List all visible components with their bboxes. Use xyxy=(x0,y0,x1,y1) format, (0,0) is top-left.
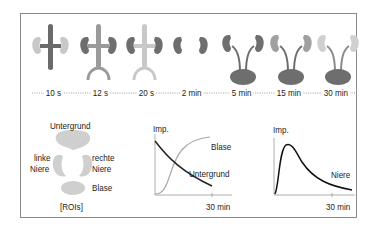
timeline-label: 12 s xyxy=(91,87,110,98)
stage-20s-icon xyxy=(126,24,162,80)
timeline-label: 30 min xyxy=(322,87,350,98)
chart1-legend-blase: Blase xyxy=(211,141,231,152)
stage-5min-icon xyxy=(222,35,263,85)
roi-label-right-kidney: rechte xyxy=(92,152,114,163)
roi-label-left-kidney: linke xyxy=(34,152,51,163)
timeline-label: 15 min xyxy=(275,87,303,98)
timeline-label: 10 s xyxy=(44,87,63,98)
chart2-xtick: 30 min xyxy=(326,201,350,212)
roi-label-left-kidney: Niere xyxy=(30,163,49,174)
timeline-label: 20 s xyxy=(137,87,156,98)
timeline-label: 5 min xyxy=(230,87,253,98)
stage-2min-icon xyxy=(173,37,207,54)
stage-15min-icon xyxy=(270,35,311,85)
stage-12s-icon xyxy=(80,24,116,80)
roi-label-bladder: Blase xyxy=(92,182,112,193)
blase-curve xyxy=(155,137,210,194)
renal-scintigraphy-diagram xyxy=(0,0,384,232)
chart2-legend-niere: Niere xyxy=(331,169,350,180)
roi-label-background: Untergrund xyxy=(50,120,90,131)
timeline-label: 2 min xyxy=(180,87,203,98)
chart1-ylabel: Imp. xyxy=(153,123,169,134)
chart1-xtick: 30 min xyxy=(206,201,230,212)
chart1-legend-untergrund: Untergrund xyxy=(189,168,229,179)
roi-shapes xyxy=(53,130,92,195)
roi-caption: [ROIs] xyxy=(60,201,83,212)
stage-10s-icon xyxy=(32,24,68,70)
chart2-ylabel: Imp. xyxy=(273,124,289,135)
stage-30min-icon xyxy=(317,35,358,85)
roi-label-right-kidney: Niere xyxy=(92,163,111,174)
chart-2 xyxy=(274,138,355,197)
